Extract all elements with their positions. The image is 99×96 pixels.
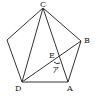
pentagon-outline [7,8,81,82]
intersection-label-e: E [49,51,55,60]
vertex-label-d: D [15,84,21,93]
angle-arc [54,62,60,64]
vertex-label-a: A [66,84,73,93]
diagonal-db [22,41,81,82]
vertex-label-b: B [84,36,90,45]
vertex-label-c: C [40,0,46,9]
diagonal-cd [22,8,43,82]
pentagon-diagram: C B A D E ア [0,0,99,96]
angle-label: ア [52,66,59,74]
